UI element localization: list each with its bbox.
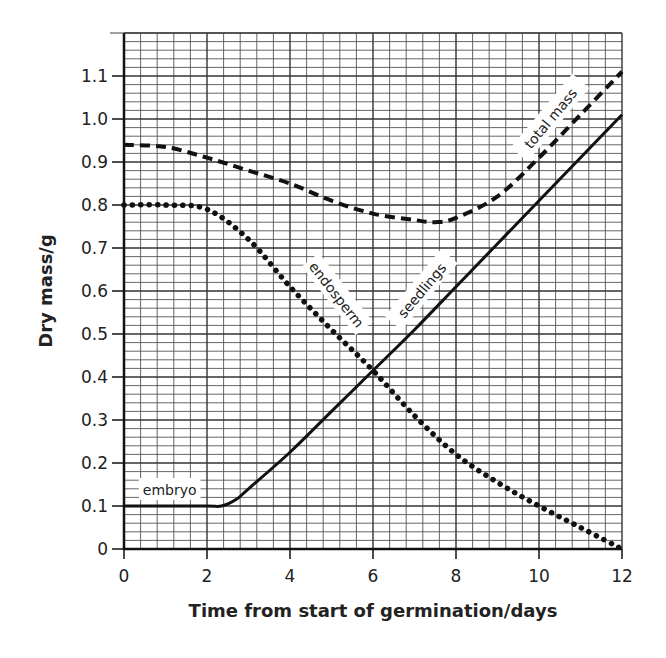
svg-text:embryo: embryo (143, 482, 197, 498)
y-tick-label: 0.9 (81, 152, 108, 172)
x-tick-label: 12 (611, 566, 633, 586)
y-tick-label: 0 (97, 539, 108, 559)
svg-text:endosperm: endosperm (306, 259, 367, 331)
y-axis-ticks: 00.10.20.30.40.50.60.70.80.91.01.1 (81, 66, 124, 559)
y-tick-label: 0.1 (81, 496, 108, 516)
x-axis-title: Time from start of germination/days (189, 600, 558, 621)
y-tick-label: 0.3 (81, 410, 108, 430)
x-tick-label: 0 (119, 566, 130, 586)
germination-dry-mass-chart: total massendospermseedlingsembryo 02468… (0, 0, 666, 658)
curve-label: embryo (139, 478, 201, 500)
x-axis-ticks: 024681012 (119, 549, 633, 586)
curve-label: seedlings (385, 249, 458, 330)
y-tick-label: 0.8 (81, 195, 108, 215)
y-tick-label: 1.1 (81, 66, 108, 86)
y-tick-label: 0.7 (81, 238, 108, 258)
x-tick-label: 6 (368, 566, 379, 586)
x-tick-label: 2 (202, 566, 213, 586)
y-axis-title: Dry mass/g (35, 234, 56, 348)
x-tick-label: 10 (528, 566, 550, 586)
y-tick-label: 0.6 (81, 281, 108, 301)
x-tick-label: 4 (285, 566, 296, 586)
y-tick-label: 0.4 (81, 367, 108, 387)
y-tick-label: 0.5 (81, 324, 108, 344)
y-tick-label: 1.0 (81, 109, 108, 129)
y-tick-label: 0.2 (81, 453, 108, 473)
x-tick-label: 8 (451, 566, 462, 586)
